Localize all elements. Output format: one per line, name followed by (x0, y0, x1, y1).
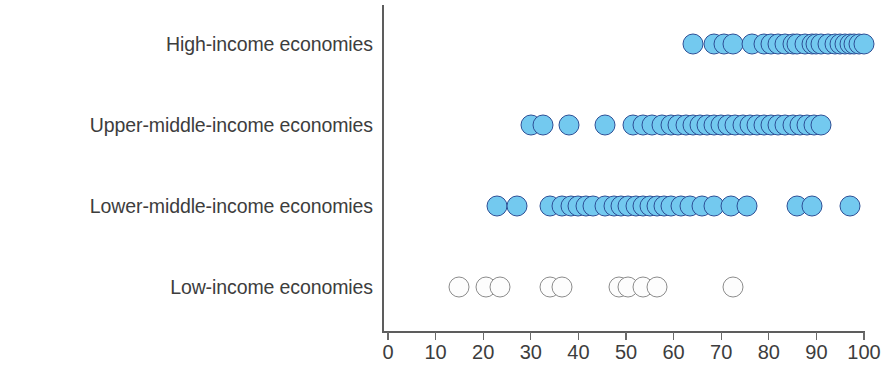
x-tick-50 (625, 332, 626, 340)
category-label-low-income: Low-income economies (0, 276, 382, 299)
category-labels-column: High-income economies Upper-middle-incom… (0, 0, 382, 365)
data-point (487, 196, 508, 217)
x-tick-label-20: 20 (472, 341, 494, 364)
data-point (839, 196, 860, 217)
x-tick-10 (435, 332, 436, 340)
data-point (737, 196, 758, 217)
x-axis-line (382, 331, 865, 333)
data-point (506, 196, 527, 217)
data-point (682, 34, 703, 55)
x-tick-20 (483, 332, 484, 340)
data-point (854, 34, 875, 55)
x-tick-60 (673, 332, 674, 340)
y-axis-line (382, 5, 384, 332)
data-point (449, 277, 470, 298)
x-tick-30 (530, 332, 531, 340)
data-point (723, 277, 744, 298)
x-tick-90 (816, 332, 817, 340)
data-point (646, 277, 667, 298)
x-tick-100 (863, 332, 864, 340)
x-tick-70 (721, 332, 722, 340)
x-tick-label-40: 40 (567, 341, 589, 364)
x-tick-label-80: 80 (758, 341, 780, 364)
data-point (551, 277, 572, 298)
x-tick-label-50: 50 (615, 341, 637, 364)
plot-area: 0102030405060708090100 (382, 0, 883, 365)
x-tick-label-0: 0 (382, 341, 393, 364)
data-point (801, 196, 822, 217)
x-tick-40 (578, 332, 579, 340)
dot-plot-chart: High-income economies Upper-middle-incom… (0, 0, 883, 365)
category-label-high-income: High-income economies (0, 33, 382, 56)
x-tick-label-90: 90 (805, 341, 827, 364)
x-tick-label-100: 100 (847, 341, 880, 364)
category-label-lower-middle-income: Lower-middle-income economies (0, 195, 382, 218)
x-tick-0 (387, 332, 388, 340)
x-tick-label-30: 30 (520, 341, 542, 364)
data-point (723, 34, 744, 55)
x-tick-label-10: 10 (424, 341, 446, 364)
data-point (594, 115, 615, 136)
data-point (811, 115, 832, 136)
x-tick-label-60: 60 (662, 341, 684, 364)
data-point (558, 115, 579, 136)
category-label-upper-middle-income: Upper-middle-income economies (0, 114, 382, 137)
x-tick-label-70: 70 (710, 341, 732, 364)
data-point (532, 115, 553, 136)
data-point (489, 277, 510, 298)
x-tick-80 (768, 332, 769, 340)
